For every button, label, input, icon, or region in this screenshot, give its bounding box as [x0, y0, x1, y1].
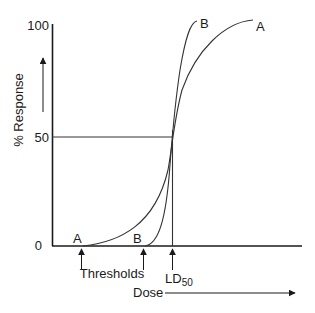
curve-a-end-label: A [256, 19, 265, 34]
y-axis-label: % Response [11, 73, 26, 147]
curve-b-end-label: B [200, 16, 209, 31]
thresholds-label: Thresholds [80, 266, 145, 281]
curve-a [83, 20, 253, 246]
ld50-main: LD [165, 271, 182, 286]
y-tick-50: 50 [35, 130, 49, 145]
curve-b-start-label: B [133, 231, 142, 246]
y-tick-100: 100 [27, 18, 49, 33]
y-tick-0: 0 [35, 238, 42, 253]
x-axis-label: Dose [133, 285, 163, 300]
ld50-subscript: 50 [182, 277, 194, 288]
curve-a-start-label: A [73, 231, 82, 246]
dose-response-diagram: 100 50 0 % Response B A A B Thresholds L… [0, 0, 315, 313]
ld50-label: LD50 [165, 271, 193, 288]
curve-b [145, 21, 197, 246]
